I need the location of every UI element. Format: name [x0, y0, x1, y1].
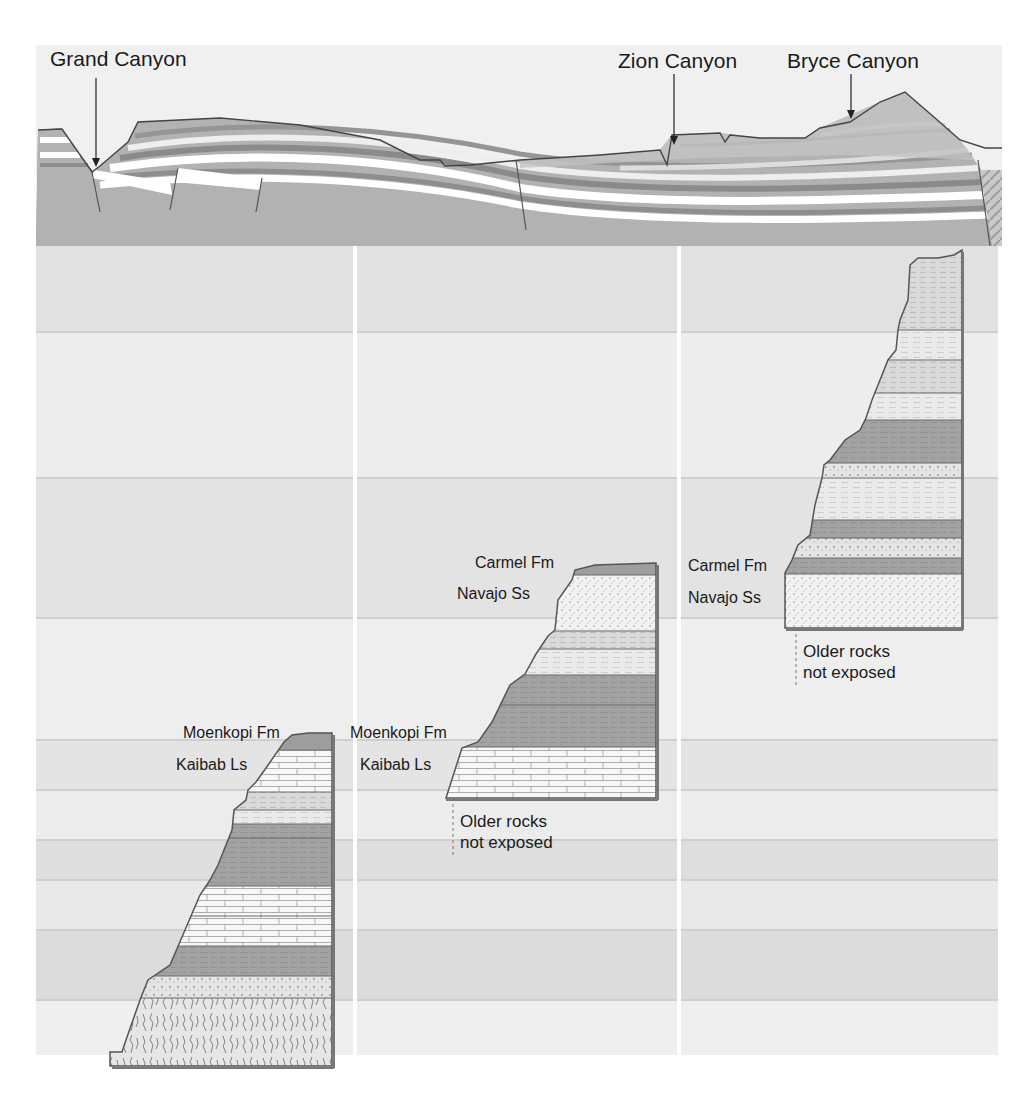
navajo-label: Navajo Ss — [457, 586, 530, 602]
moenkopi-label: Moenkopi Fm — [350, 725, 447, 741]
carmel-label: Carmel Fm — [688, 558, 767, 574]
cross-section-diagram — [0, 0, 1032, 1099]
navajo-label: Navajo Ss — [688, 590, 761, 606]
zion-canyon-label: Zion Canyon — [618, 50, 737, 71]
older-rocks-note: Older rocks not exposed — [803, 641, 896, 683]
grand-canyon-label: Grand Canyon — [50, 48, 187, 69]
older-rocks-line1: Older rocks — [803, 641, 896, 662]
older-rocks-line1: Older rocks — [460, 811, 553, 832]
kaibab-label: Kaibab Ls — [176, 757, 247, 773]
carmel-label: Carmel Fm — [475, 555, 554, 571]
kaibab-label: Kaibab Ls — [360, 757, 431, 773]
older-rocks-line2: not exposed — [460, 832, 553, 853]
older-rocks-note: Older rocks not exposed — [460, 811, 553, 853]
regional-cross-section — [36, 45, 1002, 246]
bryce-canyon-label: Bryce Canyon — [787, 50, 919, 71]
moenkopi-label: Moenkopi Fm — [183, 725, 280, 741]
older-rocks-line2: not exposed — [803, 662, 896, 683]
